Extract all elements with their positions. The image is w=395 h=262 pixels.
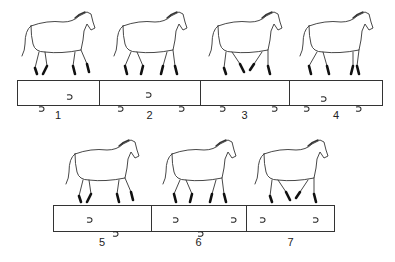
horse-figure bbox=[109, 10, 191, 82]
hoofprint-icon bbox=[66, 86, 73, 92]
hoofprint-icon bbox=[320, 88, 327, 94]
horse-icon bbox=[250, 138, 332, 206]
horse-icon bbox=[61, 138, 143, 206]
frame-divider bbox=[200, 81, 201, 105]
horse-icon bbox=[17, 10, 99, 78]
hoofprint-icon bbox=[271, 98, 278, 104]
horse-icon bbox=[109, 10, 191, 78]
horse-figure bbox=[250, 138, 332, 210]
frame-divider bbox=[99, 81, 100, 105]
hoofprint-icon bbox=[219, 98, 226, 104]
horse-figure bbox=[204, 10, 286, 82]
frame-divider bbox=[246, 206, 247, 231]
hoofprint-icon bbox=[38, 98, 45, 104]
horse-figure bbox=[17, 10, 99, 82]
horse-figure bbox=[295, 10, 377, 82]
hoofprint-icon bbox=[145, 84, 152, 90]
frame-number-label: 2 bbox=[140, 109, 160, 121]
horse-icon bbox=[204, 10, 286, 78]
hoofprint-icon bbox=[197, 223, 204, 229]
frame-number-label: 1 bbox=[48, 109, 68, 121]
frame-number-label: 3 bbox=[235, 109, 255, 121]
hoofprint-icon bbox=[303, 98, 310, 104]
horse-figure bbox=[61, 138, 143, 210]
frame-divider bbox=[151, 206, 152, 231]
horse-icon bbox=[295, 10, 377, 78]
frame-number-label: 4 bbox=[326, 109, 346, 121]
hoofprint-icon bbox=[355, 98, 362, 104]
frame-number-label: 6 bbox=[189, 236, 209, 248]
hoofprint-icon bbox=[117, 98, 124, 104]
hoofprint-icon bbox=[178, 98, 185, 104]
hoofprint-track bbox=[17, 80, 383, 106]
frame-number-label: 7 bbox=[281, 236, 301, 248]
hoofprint-icon bbox=[112, 223, 119, 229]
frame-number-label: 5 bbox=[92, 236, 112, 248]
horse-figure bbox=[158, 138, 240, 210]
horse-icon bbox=[158, 138, 240, 206]
frame-divider bbox=[289, 81, 290, 105]
